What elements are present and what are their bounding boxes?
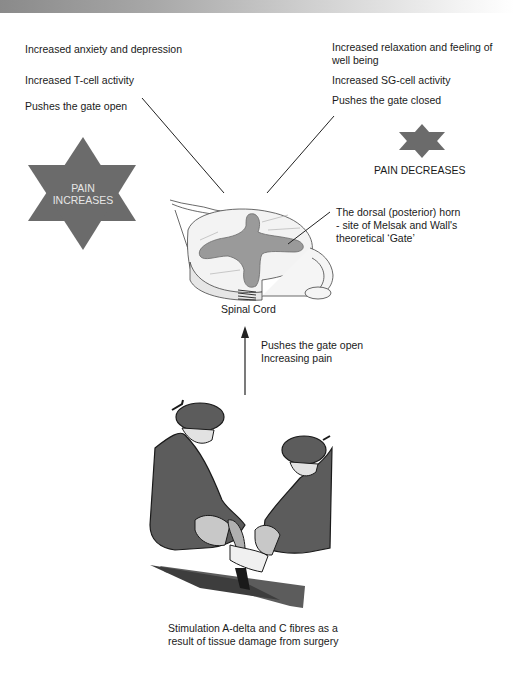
left-connector-line [142,98,224,193]
pain-decreases-label: PAIN DECREASES [374,164,465,177]
arrow-label-gate-open: Pushes the gate open [261,339,363,352]
pain-increases-line2: INCREASES [28,194,138,206]
pain-increases-label: PAIN INCREASES [28,182,138,206]
surgeons-illustration [150,400,332,608]
right-connector-line [267,116,334,193]
dorsal-horn-annotation: The dorsal (posterior) horn - site of Me… [336,206,461,245]
surgery-caption: Stimulation A-delta and C fibres as a re… [168,622,343,648]
spinal-cord-illustration [170,200,333,300]
pain-decreases-star-icon [399,124,445,158]
arrow-up-icon [241,326,249,395]
pain-increases-line1: PAIN [28,182,138,194]
spinal-cord-label: Spinal Cord [221,303,276,316]
diagram-graphics [0,0,514,674]
arrow-label-increasing-pain: Increasing pain [261,352,332,365]
